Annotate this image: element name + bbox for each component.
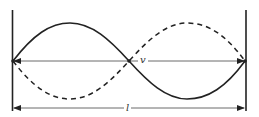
- standing-wave-diagram: [0, 0, 259, 117]
- velocity-label: v: [138, 55, 148, 65]
- node-right: [243, 59, 247, 63]
- length-label: l: [124, 103, 131, 113]
- node-center: [127, 59, 131, 63]
- node-left: [11, 59, 15, 63]
